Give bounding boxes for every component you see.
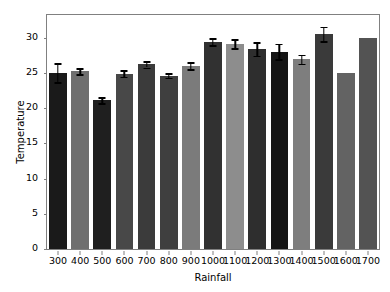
- x-axis-tick-mark: [213, 251, 214, 255]
- error-bar-cap: [187, 69, 194, 70]
- error-bar-cap: [276, 44, 283, 45]
- x-axis-tick-mark: [301, 251, 302, 255]
- y-axis-tick-mark: [44, 73, 48, 74]
- y-axis-tick-mark: [44, 249, 48, 250]
- bar: [271, 52, 289, 249]
- x-axis-tick-mark: [257, 251, 258, 255]
- x-axis-tick-mark: [323, 251, 324, 255]
- bar: [182, 66, 200, 249]
- x-axis-tick-label: 300: [49, 255, 67, 266]
- bar: [71, 71, 89, 249]
- x-axis-tick-label: 1200: [245, 255, 269, 266]
- error-bar-cap: [55, 63, 62, 64]
- error-bar-cap: [298, 64, 305, 65]
- x-axis-tick-label: 1300: [267, 255, 291, 266]
- y-axis-label: Temperature: [14, 14, 28, 250]
- bar: [116, 74, 134, 250]
- bar: [160, 76, 178, 249]
- error-bar: [279, 44, 280, 60]
- x-axis-tick-label: 500: [93, 255, 111, 266]
- y-axis-tick-mark: [44, 38, 48, 39]
- y-axis-tick-label: 20: [26, 101, 38, 112]
- bar: [49, 73, 67, 249]
- bar-chart-figure: Temperature Rainfall 0510152025303004005…: [0, 0, 390, 292]
- x-axis-tick-mark: [146, 251, 147, 255]
- y-axis-tick-label: 25: [26, 66, 38, 77]
- x-axis-tick-label: 1100: [223, 255, 247, 266]
- plot-axes: 0510152025303004005006007008009001000110…: [46, 14, 380, 250]
- error-bar-cap: [210, 38, 217, 39]
- error-bar-cap: [99, 97, 106, 98]
- error-bar: [257, 42, 258, 55]
- plot-area: 0510152025303004005006007008009001000110…: [47, 15, 379, 249]
- error-bar: [323, 27, 324, 42]
- y-axis-tick-mark: [44, 214, 48, 215]
- error-bar-cap: [232, 39, 239, 40]
- x-axis-tick-label: 400: [71, 255, 89, 266]
- error-bar-cap: [143, 61, 150, 62]
- x-axis-tick-mark: [235, 251, 236, 255]
- y-axis-tick-label: 10: [26, 172, 38, 183]
- error-bar-cap: [165, 78, 172, 79]
- error-bar-cap: [298, 55, 305, 56]
- x-axis-tick-mark: [279, 251, 280, 255]
- error-bar: [57, 63, 58, 82]
- error-bar-cap: [77, 74, 84, 75]
- x-axis-tick-label: 1600: [334, 255, 358, 266]
- x-axis-tick-label: 1500: [312, 255, 336, 266]
- x-axis-tick-mark: [367, 251, 368, 255]
- error-bar-cap: [232, 48, 239, 49]
- bar: [204, 42, 222, 249]
- error-bar-cap: [143, 68, 150, 69]
- x-axis-tick-label: 1400: [289, 255, 313, 266]
- error-bar-cap: [210, 45, 217, 46]
- x-axis-tick-mark: [80, 251, 81, 255]
- x-axis-tick-label: 800: [160, 255, 178, 266]
- bar: [226, 44, 244, 249]
- error-bar-cap: [276, 59, 283, 60]
- y-axis-tick-label: 30: [26, 31, 38, 42]
- x-axis-tick-mark: [58, 251, 59, 255]
- x-axis-tick-label: 900: [182, 255, 200, 266]
- bar: [138, 64, 156, 249]
- error-bar-cap: [77, 68, 84, 69]
- y-axis-tick-label: 0: [32, 242, 38, 253]
- bar: [248, 49, 266, 249]
- error-bar-cap: [55, 82, 62, 83]
- y-axis-tick-mark: [44, 143, 48, 144]
- x-axis-tick-label: 1700: [356, 255, 380, 266]
- bar: [337, 73, 355, 249]
- x-axis-tick-mark: [124, 251, 125, 255]
- y-axis-tick-label: 15: [26, 136, 38, 147]
- y-axis-tick-mark: [44, 179, 48, 180]
- x-axis-tick-label: 600: [115, 255, 133, 266]
- error-bar-cap: [254, 56, 261, 57]
- error-bar-cap: [320, 27, 327, 28]
- bar: [93, 100, 111, 249]
- error-bar-cap: [320, 41, 327, 42]
- error-bar-cap: [187, 62, 194, 63]
- error-bar-cap: [121, 70, 128, 71]
- error-bar-cap: [165, 73, 172, 74]
- error-bar-cap: [121, 77, 128, 78]
- x-axis-tick-mark: [102, 251, 103, 255]
- bar: [315, 34, 333, 249]
- y-axis-tick-mark: [44, 108, 48, 109]
- bar: [359, 38, 377, 249]
- bar: [293, 59, 311, 249]
- error-bar-cap: [254, 42, 261, 43]
- x-axis-tick-mark: [345, 251, 346, 255]
- x-axis-tick-mark: [190, 251, 191, 255]
- x-axis-tick-mark: [168, 251, 169, 255]
- x-axis-tick-label: 1000: [201, 255, 225, 266]
- x-axis-tick-label: 700: [138, 255, 156, 266]
- y-axis-tick-label: 5: [32, 207, 38, 218]
- error-bar-cap: [99, 103, 106, 104]
- x-axis-label: Rainfall: [46, 272, 380, 283]
